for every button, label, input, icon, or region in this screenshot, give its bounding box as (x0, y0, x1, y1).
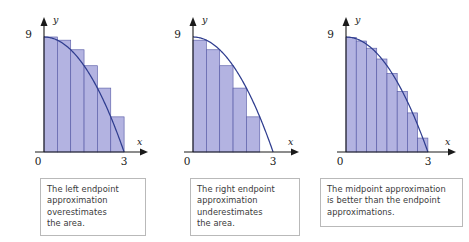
x-axis-label: x (288, 136, 294, 147)
chart-panel-right-endpoint: 9 0 3 y x (157, 0, 309, 168)
riemann-rectangle (193, 40, 206, 152)
x-axis-arrow-icon (140, 149, 148, 156)
caption-line: The left endpoint (47, 184, 139, 195)
x-tick-label-3: 3 (121, 155, 128, 167)
x-tick-label-0: 0 (35, 155, 42, 167)
caption-line: underestimates (197, 207, 293, 218)
x-tick-label-3: 3 (270, 155, 277, 167)
riemann-rectangle (407, 113, 417, 152)
riemann-rectangle (206, 50, 219, 152)
riemann-rectangle (346, 37, 356, 152)
y-axis-arrow-icon (41, 17, 48, 26)
caption-line: approximation (197, 195, 293, 206)
riemann-rectangle (233, 88, 246, 152)
x-axis-label: x (445, 136, 451, 147)
x-tick-label-0: 0 (184, 155, 191, 167)
caption-line: The right endpoint (197, 184, 293, 195)
caption-line: overestimates (47, 207, 139, 218)
x-axis-label: x (137, 136, 143, 147)
right-endpoint-plot: 9 0 3 y x (157, 0, 309, 168)
caption-line: The midpoint approximation (327, 184, 456, 195)
riemann-rectangle (44, 37, 57, 152)
riemann-rectangle (366, 48, 376, 152)
y-axis-label: y (201, 14, 208, 25)
left-endpoint-caption: The left endpoint approximation overesti… (40, 178, 146, 236)
riemann-rectangle (84, 66, 97, 152)
y-axis-label: y (52, 14, 59, 25)
caption-line: the area. (47, 218, 139, 229)
left-endpoint-rectangles (44, 37, 124, 152)
riemann-rectangle (97, 88, 110, 152)
y-tick-label-9: 9 (174, 28, 181, 40)
riemann-rectangle (377, 59, 387, 152)
y-axis-arrow-icon (190, 17, 197, 26)
riemann-rectangle (71, 50, 84, 152)
x-axis-arrow-icon (291, 149, 299, 156)
chart-panel-left-endpoint: 9 0 3 y x (0, 0, 158, 168)
midpoint-caption: The midpoint approximation is better tha… (320, 178, 463, 227)
riemann-rectangle (220, 66, 233, 152)
y-tick-label-9: 9 (327, 28, 334, 40)
right-endpoint-caption: The right endpoint approximation underes… (190, 178, 300, 236)
midpoint-rectangles (346, 37, 428, 152)
x-tick-label-3: 3 (425, 155, 432, 167)
chart-panel-midpoint: 9 0 3 y x (308, 0, 469, 168)
left-endpoint-plot: 9 0 3 y x (0, 0, 158, 168)
caption-line: approximation (47, 195, 139, 206)
y-tick-label-9: 9 (25, 28, 32, 40)
caption-line: approximations. (327, 207, 456, 218)
riemann-rectangle (387, 73, 397, 152)
riemann-rectangle (246, 117, 259, 152)
riemann-rectangle (356, 41, 366, 152)
y-axis-arrow-icon (343, 17, 350, 26)
riemann-rectangle (418, 138, 428, 152)
riemann-rectangle (57, 40, 70, 152)
riemann-rectangle (397, 91, 407, 152)
x-tick-label-0: 0 (337, 155, 344, 167)
midpoint-plot: 9 0 3 y x (308, 0, 469, 168)
caption-line: the area. (197, 218, 293, 229)
y-axis-label: y (354, 14, 361, 25)
caption-line: is better than the endpoint (327, 195, 456, 206)
riemann-sum-figure: 9 0 3 y x 9 0 3 y x (0, 0, 469, 242)
x-axis-arrow-icon (448, 149, 456, 156)
